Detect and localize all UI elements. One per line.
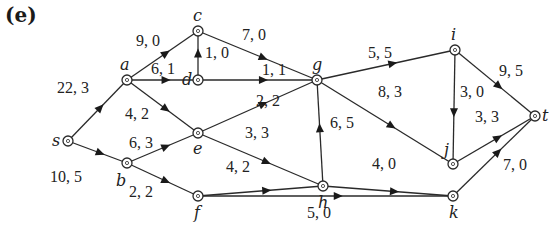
node-c: c — [193, 6, 203, 36]
node-circle — [193, 26, 203, 36]
edge-b-e: 6, 3 — [127, 133, 198, 163]
edge-label: 4, 2 — [226, 158, 250, 175]
node-circle — [193, 75, 203, 85]
panel-label: (e) — [5, 3, 37, 27]
node-k: k — [448, 191, 459, 222]
node-label: h — [318, 193, 328, 212]
arrowhead-icon — [194, 49, 202, 58]
node-g: g — [312, 55, 322, 85]
node-circle — [318, 181, 328, 191]
edge-label: 3, 0 — [460, 83, 484, 100]
node-label: d — [182, 70, 192, 89]
edge-label: 9, 0 — [136, 32, 160, 49]
edge-label: 6, 5 — [330, 114, 354, 131]
edge-line — [323, 186, 453, 196]
edge-label: 1, 1 — [262, 61, 286, 78]
edge-label: 1, 0 — [205, 44, 229, 61]
edge-label: 3, 3 — [245, 124, 269, 141]
node-f: f — [193, 191, 203, 222]
arrowhead-icon — [334, 192, 343, 200]
node-label: c — [193, 6, 202, 25]
edge-s-a: 22, 3 — [57, 79, 127, 141]
edge-label: 8, 3 — [378, 83, 402, 100]
edge-label: 9, 5 — [499, 62, 523, 79]
edge-e-h: 3, 3 — [198, 124, 323, 186]
node-circle — [63, 136, 73, 146]
node-label: f — [193, 203, 203, 222]
edge-d-c: 1, 0 — [194, 31, 229, 80]
arrowhead-icon — [450, 108, 458, 117]
arrowhead-icon — [160, 103, 170, 112]
edge-label: 22, 3 — [57, 79, 89, 96]
edge-label: 6, 1 — [151, 60, 175, 77]
edge-label: 10, 5 — [50, 168, 82, 185]
node-circle — [193, 128, 203, 138]
node-label: a — [120, 55, 130, 74]
node-t: t — [530, 106, 549, 125]
arrowhead-icon — [316, 123, 324, 132]
arrowhead-icon — [160, 50, 170, 58]
node-label: t — [542, 106, 549, 125]
edge-label: 6, 3 — [129, 134, 153, 151]
edge-h-g: 6, 5 — [316, 80, 354, 186]
node-s: s — [52, 131, 73, 150]
node-label: i — [451, 25, 456, 44]
node-label: s — [52, 131, 60, 150]
edge-label: 5, 5 — [368, 44, 392, 61]
arrowhead-icon — [390, 187, 399, 195]
edge-line — [198, 186, 323, 196]
edge-b-f: 2, 2 — [127, 163, 198, 200]
node-label: e — [193, 139, 202, 158]
arrowhead-icon — [162, 76, 171, 84]
node-circle — [450, 45, 460, 55]
node-circle — [448, 159, 458, 169]
node-circle — [122, 158, 132, 168]
edge-label: 2, 2 — [129, 183, 153, 200]
node-circle — [530, 111, 540, 121]
node-circle — [193, 191, 203, 201]
edge-h-k: 4, 0 — [323, 155, 453, 196]
node-circle — [448, 191, 458, 201]
edge-line — [317, 80, 323, 186]
arrowhead-icon — [95, 148, 105, 155]
edge-label: 7, 0 — [242, 26, 266, 43]
arrowhead-icon — [262, 187, 271, 195]
node-h: h — [318, 181, 328, 212]
flow-network-diagram: (e) 22, 310, 59, 06, 14, 21, 07, 01, 16,… — [0, 0, 549, 228]
edge-line — [453, 50, 455, 164]
node-i: i — [450, 25, 460, 55]
arrowhead-icon — [388, 61, 398, 69]
edge-f-h: 4, 2 — [198, 158, 323, 196]
arrowhead-icon — [492, 135, 502, 143]
node-label: b — [116, 171, 126, 190]
edge-label: 4, 2 — [125, 105, 149, 122]
edge-label: 4, 0 — [372, 155, 396, 172]
node-j: j — [441, 140, 458, 169]
node-label: g — [312, 55, 322, 74]
node-e: e — [193, 128, 203, 158]
node-label: k — [449, 203, 459, 222]
node-label: j — [441, 140, 449, 159]
edge-label: 3, 3 — [475, 108, 499, 125]
edge-k-t: 7, 0 — [453, 116, 535, 196]
edge-label: 2, 2 — [256, 92, 280, 109]
edge-g-i: 5, 5 — [317, 44, 455, 80]
node-circle — [312, 75, 322, 85]
node-d: d — [182, 70, 203, 89]
node-circle — [122, 75, 132, 85]
node-a: a — [120, 55, 132, 85]
arrowhead-icon — [386, 120, 396, 128]
edge-i-j: 3, 0 — [450, 50, 484, 164]
edge-label: 7, 0 — [503, 156, 527, 173]
